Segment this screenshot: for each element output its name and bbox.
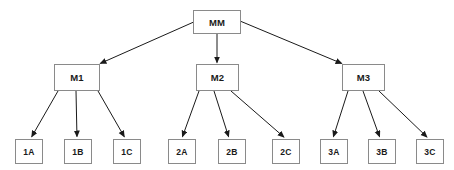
- node-label: M2: [211, 72, 225, 83]
- node-label: 3B: [376, 147, 387, 157]
- node-label: 1B: [72, 147, 83, 157]
- node-3c[interactable]: 3C: [416, 139, 444, 164]
- edge-m1-to-1b: [76, 91, 77, 137]
- edge-mm-to-m1: [100, 21, 196, 63]
- org-tree-diagram: MMM1M2M31A1B1C2A2B2C3A3B3C: [0, 0, 454, 170]
- edge-m1-to-1a: [32, 91, 58, 137]
- node-label: 1A: [23, 147, 34, 157]
- node-label: M3: [357, 72, 371, 83]
- edge-m2-to-2b: [214, 91, 229, 137]
- edge-m3-to-3a: [333, 91, 348, 137]
- edge-m1-to-1c: [98, 91, 124, 137]
- node-label: 1C: [121, 147, 132, 157]
- node-2b[interactable]: 2B: [218, 139, 246, 164]
- node-label: MM: [209, 17, 225, 28]
- node-2a[interactable]: 2A: [168, 139, 196, 164]
- node-m3[interactable]: M3: [342, 64, 385, 91]
- node-m1[interactable]: M1: [54, 64, 100, 91]
- edge-m3-to-3c: [379, 91, 427, 137]
- node-label: 2B: [226, 147, 237, 157]
- edge-m2-to-2a: [183, 91, 199, 137]
- node-label: 3C: [424, 147, 435, 157]
- node-2c[interactable]: 2C: [272, 139, 300, 164]
- node-label: M1: [70, 72, 84, 83]
- node-label: 2C: [280, 147, 291, 157]
- node-1a[interactable]: 1A: [15, 139, 43, 164]
- edge-mm-to-m3: [240, 21, 342, 63]
- edge-m2-to-2c: [231, 91, 284, 137]
- node-1c[interactable]: 1C: [113, 139, 141, 164]
- node-1b[interactable]: 1B: [64, 139, 92, 164]
- node-3a[interactable]: 3A: [320, 139, 348, 164]
- node-mm[interactable]: MM: [193, 10, 241, 34]
- node-label: 2A: [176, 147, 187, 157]
- node-label: 3A: [328, 147, 339, 157]
- node-3b[interactable]: 3B: [368, 139, 396, 164]
- edge-m3-to-3b: [363, 91, 379, 137]
- node-m2[interactable]: M2: [196, 64, 239, 91]
